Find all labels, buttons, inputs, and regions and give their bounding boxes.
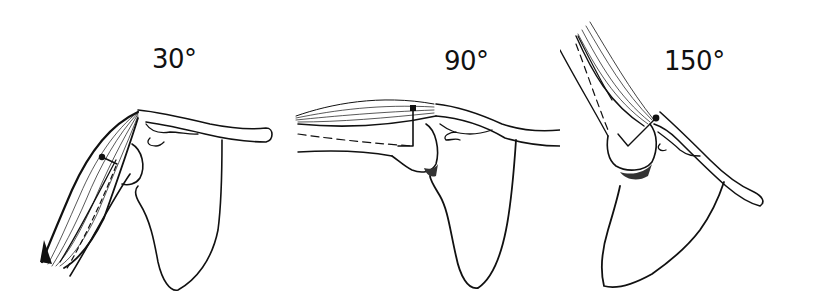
shoulder-illustration-30 (0, 0, 280, 308)
shoulder-illustration-150 (560, 0, 814, 308)
panel-30-degrees: 30° (0, 0, 280, 308)
shoulder-illustration-90 (280, 0, 560, 308)
panel-150-degrees: 150° (560, 0, 814, 308)
panel-90-degrees: 90° (280, 0, 560, 308)
